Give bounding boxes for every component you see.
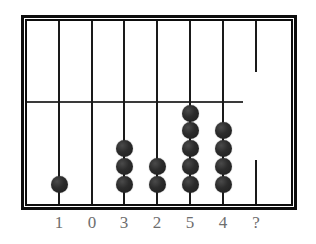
- rod-label-7-unknown: ?: [244, 212, 268, 234]
- abacus-bead-rod5-5[interactable]: [182, 105, 199, 122]
- abacus-bead-rod3-3[interactable]: [116, 140, 133, 157]
- rod-label-5: 5: [178, 212, 202, 234]
- abacus-bead-rod6-3[interactable]: [215, 140, 232, 157]
- abacus-bead-rod6-2[interactable]: [215, 158, 232, 175]
- abacus-bead-rod4-2[interactable]: [149, 158, 166, 175]
- rod-label-row: 103254?: [0, 212, 316, 240]
- rod-label-2: 0: [80, 212, 104, 234]
- abacus-puzzle: 103254?: [0, 0, 316, 244]
- rod-label-1: 1: [47, 212, 71, 234]
- abacus-rod-7[interactable]: [255, 21, 257, 204]
- abacus-interior: [27, 21, 291, 204]
- abacus-bead-rod3-2[interactable]: [116, 158, 133, 175]
- abacus-rod-2[interactable]: [91, 21, 93, 204]
- abacus-bead-rod5-2[interactable]: [182, 158, 199, 175]
- abacus-bead-rod5-3[interactable]: [182, 140, 199, 157]
- abacus-bead-rod6-4[interactable]: [215, 122, 232, 139]
- rod-label-3: 3: [112, 212, 136, 234]
- abacus-bead-rod5-4[interactable]: [182, 122, 199, 139]
- abacus-bead-rod6-1[interactable]: [215, 176, 232, 193]
- abacus-rod-7-segment-bottom: [255, 160, 257, 204]
- abacus-bead-rod4-1[interactable]: [149, 176, 166, 193]
- abacus-bead-rod5-1[interactable]: [182, 176, 199, 193]
- abacus-bead-rod1-1[interactable]: [51, 176, 68, 193]
- rod-label-6: 4: [211, 212, 235, 234]
- rod-label-4: 2: [145, 212, 169, 234]
- abacus-rod-7-segment-top: [255, 21, 257, 72]
- abacus-bead-rod3-1[interactable]: [116, 176, 133, 193]
